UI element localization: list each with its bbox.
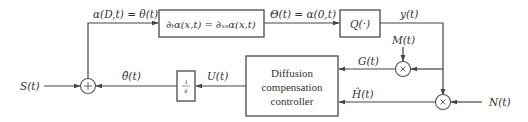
controller-label-line2: compensation xyxy=(261,81,323,93)
signal-s-label: S(t) xyxy=(20,80,40,92)
signal-theta-output-label: Θ(t) = α(0,t) xyxy=(270,8,336,20)
diffusion-esc-block-diagram: ∂ₜα(x,t) = ∂ₓₓα(x,t) Q(·) 1 s Diffusion … xyxy=(0,0,528,122)
signal-y-label: y(t) xyxy=(399,8,418,20)
signal-boundary-label: α(D,t) = θ(t) xyxy=(93,8,158,20)
controller-label-line3: controller xyxy=(271,95,314,107)
sum-junction xyxy=(81,79,96,94)
quantizer-label: Q(·) xyxy=(350,18,370,31)
multiplier-h-junction xyxy=(436,95,451,110)
controller-label-line1: Diffusion xyxy=(271,67,313,79)
pde-block: ∂ₜα(x,t) = ∂ₓₓα(x,t) xyxy=(159,10,264,37)
signal-n-label: N(t) xyxy=(488,96,511,108)
signal-m-label: M(t) xyxy=(391,34,415,46)
signal-h-label: Ĥ(t) xyxy=(351,87,374,100)
integrator-block: 1 s xyxy=(177,71,195,101)
quantizer-block: Q(·) xyxy=(340,10,380,37)
signal-u-label: U(t) xyxy=(207,70,228,82)
controller-block: Diffusion compensation controller xyxy=(246,56,338,116)
multiplier-g-junction xyxy=(396,62,411,77)
integrator-numerator: 1 xyxy=(184,78,187,85)
signal-theta-hat-label: θ̂(t) xyxy=(122,70,141,82)
signal-g-label: G(t) xyxy=(358,55,379,67)
pde-label: ∂ₜα(x,t) = ∂ₓₓα(x,t) xyxy=(166,19,256,30)
